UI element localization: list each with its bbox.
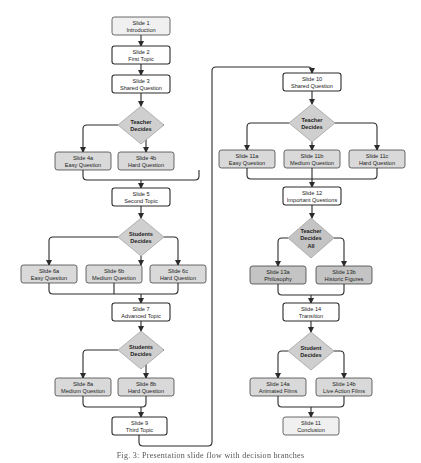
node-subtitle: Shared Question bbox=[120, 85, 162, 91]
slide-node-s4a: Slide 4aEasy Question bbox=[55, 152, 111, 170]
slide-node-s13a: Slide 13aPhilosophy bbox=[250, 266, 306, 284]
slide-node-s14a: Slide 14aAnimated Films bbox=[250, 378, 306, 396]
node-title: Slide 5 bbox=[132, 191, 149, 197]
node-title: Student bbox=[301, 345, 322, 351]
node-title: Slide 6c bbox=[168, 268, 188, 274]
node-subtitle: Medium Question bbox=[61, 388, 105, 394]
node-title: Slide 6a bbox=[39, 268, 60, 274]
node-title: Slide 14 bbox=[301, 306, 321, 312]
slide-node-s4b: Slide 4bHard Question bbox=[118, 152, 174, 170]
node-title: Slide 7 bbox=[132, 306, 149, 312]
connector-arrow bbox=[83, 125, 118, 152]
node-subtitle: Decides bbox=[300, 235, 321, 241]
slide-node-s3: Slide 3Shared Question bbox=[112, 75, 170, 93]
slide-node-s9: Slide 9Third Topic bbox=[112, 417, 167, 435]
connector-arrow bbox=[278, 396, 344, 407]
node-title: Slide 10 bbox=[302, 76, 322, 82]
node-subtitle: Easy Question bbox=[65, 162, 101, 168]
node-title: Slide 14b bbox=[332, 381, 355, 387]
slide-node-s5: Slide 5Second Topic bbox=[112, 188, 170, 206]
node-title: Slide 11b bbox=[301, 153, 324, 159]
node-title: Slide 8a bbox=[73, 381, 94, 387]
node-subtitle: Second Topic bbox=[124, 198, 158, 204]
flowchart: Slide 1IntroductionSlide 2First TopicSli… bbox=[0, 0, 421, 463]
node-subtitle: Important Questions bbox=[287, 197, 338, 203]
flowchart-nodes: Slide 1IntroductionSlide 2First TopicSli… bbox=[21, 17, 405, 435]
node-subtitle: Animated Films bbox=[259, 388, 298, 394]
node-title: Teacher bbox=[300, 228, 322, 234]
node-subtitle: Hard Question bbox=[128, 388, 164, 394]
slide-node-s11a: Slide 11aEasy Question bbox=[219, 150, 275, 168]
node-title: Students bbox=[129, 231, 153, 237]
node-subtitle: Medium Question bbox=[290, 160, 334, 166]
node-title: Slide 2 bbox=[132, 49, 149, 55]
node-title: Slide 8b bbox=[136, 381, 156, 387]
slide-node-s1: Slide 1Introduction bbox=[112, 17, 170, 35]
connector-arrow bbox=[278, 351, 288, 378]
node-subtitle: Shared Question bbox=[291, 83, 333, 89]
node-subtitle: Hard Question bbox=[359, 160, 395, 166]
node-subtitle: All bbox=[307, 243, 315, 249]
connector-arrow bbox=[164, 237, 178, 265]
node-subtitle: Hard Question bbox=[160, 275, 196, 281]
decision-diamond bbox=[118, 331, 164, 369]
connector-arrow bbox=[83, 170, 199, 180]
node-title: Teacher bbox=[130, 119, 152, 125]
decision-node-d1: TeacherDecides bbox=[118, 106, 164, 144]
decision-node-d2: StudentsDecides bbox=[118, 218, 164, 256]
node-subtitle: Decides bbox=[130, 238, 151, 244]
node-title: Slide 6b bbox=[104, 268, 124, 274]
node-title: Slide 11c bbox=[366, 153, 389, 159]
node-subtitle: First Topic bbox=[128, 56, 154, 62]
decision-diamond bbox=[118, 218, 164, 256]
node-title: Slide 4a bbox=[73, 155, 94, 161]
slide-node-s11c: Slide 11cHard Question bbox=[349, 150, 405, 168]
slide-node-s14: Slide 14Transition bbox=[283, 303, 339, 321]
connector-arrow bbox=[278, 284, 344, 295]
node-title: Slide 1 bbox=[132, 20, 149, 26]
node-subtitle: Medium Question bbox=[92, 275, 136, 281]
slide-node-s14b: Slide 14bLive Action Films bbox=[316, 378, 372, 396]
connector-arrow bbox=[49, 237, 118, 265]
slide-node-s6c: Slide 6cHard Question bbox=[150, 265, 206, 283]
node-title: Slide 11a bbox=[236, 153, 260, 159]
connector-arrow bbox=[334, 238, 344, 266]
connector-arrow bbox=[83, 396, 146, 407]
slide-node-s11: Slide 11Conclusion bbox=[283, 417, 339, 435]
node-subtitle: Introduction bbox=[126, 27, 155, 33]
node-title: Slide 13a bbox=[266, 269, 290, 275]
node-title: Slide 12 bbox=[302, 190, 322, 196]
connector-arrow bbox=[83, 350, 118, 378]
node-title: Students bbox=[129, 344, 153, 350]
node-subtitle: Decides bbox=[130, 126, 151, 132]
node-subtitle: Third Topic bbox=[126, 427, 153, 433]
node-subtitle: Philosophy bbox=[264, 276, 292, 282]
slide-node-s8b: Slide 8bHard Question bbox=[118, 378, 174, 396]
slide-node-s13b: Slide 13bHistoric Figures bbox=[316, 266, 372, 284]
node-subtitle: Easy Question bbox=[229, 160, 265, 166]
node-subtitle: Advanced Topic bbox=[121, 313, 161, 319]
connector-arrow bbox=[334, 351, 344, 378]
slide-node-s7: Slide 7Advanced Topic bbox=[112, 303, 170, 321]
decision-node-d3: StudentsDecides bbox=[118, 331, 164, 369]
slide-node-s11b: Slide 11bMedium Question bbox=[284, 150, 340, 168]
connector-arrow bbox=[247, 123, 289, 150]
node-subtitle: Historic Figures bbox=[325, 276, 364, 282]
slide-node-s12: Slide 12Important Questions bbox=[283, 187, 341, 205]
node-subtitle: Transition bbox=[299, 313, 323, 319]
connector-arrow bbox=[335, 123, 377, 150]
node-subtitle: Decides bbox=[300, 352, 321, 358]
node-subtitle: Live Action Films bbox=[323, 388, 365, 394]
node-title: Slide 9 bbox=[131, 420, 148, 426]
connector-arrow bbox=[278, 238, 288, 266]
node-title: Slide 3 bbox=[132, 78, 149, 84]
slide-node-s6b: Slide 6bMedium Question bbox=[86, 265, 142, 283]
node-subtitle: Conclusion bbox=[297, 427, 325, 433]
decision-node-d6: StudentDecides bbox=[288, 332, 334, 370]
node-subtitle: Decides bbox=[301, 124, 322, 130]
slide-node-s2: Slide 2First Topic bbox=[112, 46, 170, 64]
decision-diamond bbox=[288, 332, 334, 370]
node-title: Slide 14a bbox=[266, 381, 290, 387]
node-subtitle: Hard Question bbox=[128, 162, 164, 168]
node-title: Slide 11 bbox=[301, 420, 321, 426]
